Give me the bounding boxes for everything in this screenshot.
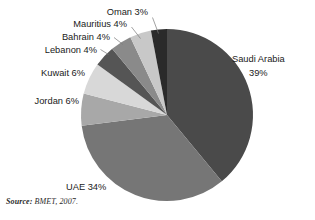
source-value: BMET, 2007. xyxy=(35,197,78,206)
pie-chart-svg: Oman 3% Mauritius 4% Bahrain 4% Lebanon … xyxy=(0,0,315,220)
pie-label-saudi-arabia-value: 39% xyxy=(249,68,268,78)
pie-label-saudi-arabia: Saudi Arabia xyxy=(232,54,286,64)
source-label: Source: xyxy=(6,197,32,206)
pie-label-bahrain: Bahrain 4% xyxy=(62,32,110,42)
pie-label-lebanon: Lebanon 4% xyxy=(45,45,97,55)
pie-label-kuwait: Kuwait 6% xyxy=(41,68,85,78)
pie-label-oman: Oman 3% xyxy=(107,7,148,17)
leader-line-bahrain xyxy=(114,38,123,45)
source-note: Source: BMET, 2007. xyxy=(6,197,78,206)
pie-label-jordan: Jordan 6% xyxy=(35,96,79,106)
pie-label-uae: UAE 34% xyxy=(66,182,106,192)
leader-line-lebanon xyxy=(101,50,109,55)
pie-chart-figure: Oman 3% Mauritius 4% Bahrain 4% Lebanon … xyxy=(0,0,315,220)
pie-label-mauritius: Mauritius 4% xyxy=(73,19,127,29)
